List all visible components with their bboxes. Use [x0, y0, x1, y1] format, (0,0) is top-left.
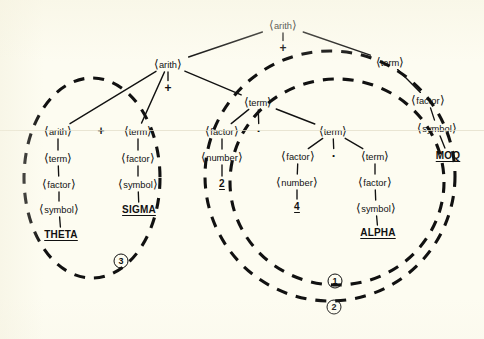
tree-edge	[189, 32, 263, 57]
tree-node-a3_op: +	[97, 125, 104, 137]
tree-node-t_theta: ⟨term⟩	[44, 152, 73, 164]
tree-edge	[345, 138, 363, 148]
tree-node-s_right: ⟨symbol⟩	[417, 122, 456, 134]
tree-node-tm3: ⟨term⟩	[361, 150, 390, 162]
tree-node-tm1_op: ·	[257, 128, 261, 133]
tree-node-a3: ⟨arith⟩	[44, 125, 72, 137]
reduction-group-outline-2	[205, 51, 455, 301]
tree-node-num_four: ⟨number⟩	[276, 176, 318, 188]
tree-edge	[440, 136, 445, 148]
tree-node-tm2_op: ·	[332, 153, 336, 158]
tree-node-a2: ⟨arith⟩	[154, 58, 182, 70]
tree-edge	[308, 138, 322, 148]
tree-node-theta: THETA	[44, 230, 78, 240]
tree-node-t_sigma: ⟨term⟩	[124, 125, 153, 137]
tree-node-s_alpha: ⟨symbol⟩	[356, 202, 395, 214]
tree-node-root: ⟨arith⟩	[269, 19, 297, 31]
tree-node-f_four: ⟨factor⟩	[281, 150, 314, 162]
tree-node-f_theta: ⟨factor⟩	[42, 178, 75, 190]
tree-node-num_two: ⟨number⟩	[201, 151, 243, 163]
tree-node-t_right: ⟨term⟩	[376, 56, 405, 68]
tree-node-alpha: ALPHA	[360, 228, 395, 238]
tree-node-f_alpha: ⟨factor⟩	[358, 176, 391, 188]
tree-edge	[303, 32, 370, 55]
tree-edge	[231, 109, 249, 123]
group-number-badge-3: 3	[114, 254, 129, 269]
tree-edge	[276, 109, 315, 124]
tree-canvas	[0, 0, 484, 339]
tree-node-f_sigma: ⟨factor⟩	[121, 152, 154, 164]
tree-node-four: 4	[294, 202, 300, 212]
tree-edge	[185, 71, 241, 95]
tree-node-moq: MOQ	[436, 151, 461, 161]
reduction-group-outline-1	[230, 79, 444, 285]
tree-edge	[377, 216, 378, 225]
tree-node-sigma: SIGMA	[122, 205, 156, 215]
tree-edge	[431, 108, 435, 120]
tree-node-tm2: ⟨term⟩	[319, 125, 348, 137]
tree-node-tm1: ⟨term⟩	[244, 96, 273, 108]
tree-node-s_theta: ⟨symbol⟩	[39, 203, 78, 215]
group-number-badge-2: 2	[327, 300, 342, 315]
tree-node-a2_op: +	[164, 82, 171, 94]
tree-node-s_sigma: ⟨symbol⟩	[118, 178, 157, 190]
tree-node-f_two: ⟨factor⟩	[205, 125, 238, 137]
group-number-badge-1: 1	[328, 274, 343, 289]
tree-edge	[60, 217, 61, 227]
tree-node-f_right: ⟨factor⟩	[411, 94, 444, 106]
tree-node-root_op: +	[279, 42, 286, 54]
tree-node-two: 2	[219, 179, 225, 189]
parse-tree-figure: ⟨arith⟩+⟨arith⟩+⟨term⟩⟨factor⟩⟨symbol⟩MO…	[0, 0, 484, 339]
